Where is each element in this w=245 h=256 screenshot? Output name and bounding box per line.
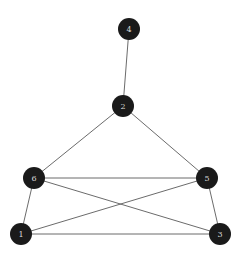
node-4: 4 bbox=[118, 18, 140, 40]
edge-4-2 bbox=[123, 29, 129, 106]
graph-diagram: 123456 bbox=[0, 0, 245, 256]
edges-layer bbox=[21, 29, 220, 234]
node-5: 5 bbox=[196, 167, 218, 189]
edge-2-5 bbox=[123, 106, 207, 178]
node-label: 1 bbox=[18, 230, 23, 239]
node-3: 3 bbox=[209, 223, 231, 245]
node-label: 2 bbox=[120, 102, 125, 111]
node-2: 2 bbox=[112, 95, 134, 117]
node-6: 6 bbox=[23, 167, 45, 189]
edge-2-6 bbox=[34, 106, 123, 178]
node-label: 4 bbox=[126, 25, 131, 34]
node-label: 5 bbox=[204, 174, 209, 183]
node-label: 6 bbox=[31, 174, 36, 183]
node-label: 3 bbox=[217, 230, 222, 239]
node-1: 1 bbox=[10, 223, 32, 245]
edge-5-1 bbox=[21, 178, 207, 234]
edge-6-3 bbox=[34, 178, 220, 234]
nodes-layer: 123456 bbox=[10, 18, 231, 245]
